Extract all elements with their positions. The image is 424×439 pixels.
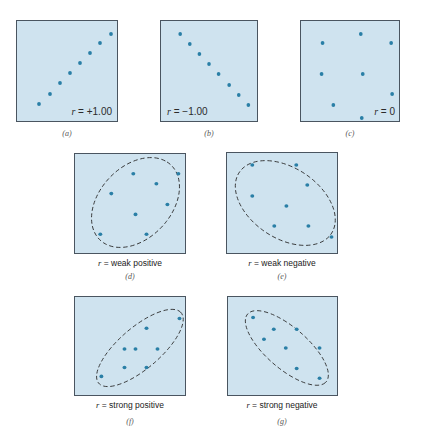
- scatter-panel-e: [226, 152, 338, 254]
- correlation-label-f: r = strong positive: [96, 400, 164, 410]
- cluster-ellipse-e: [227, 153, 337, 253]
- scatter-plot-g: [228, 297, 337, 395]
- correlation-label-b: r = −1.00: [167, 106, 208, 117]
- correlation-label-d: r = weak positive: [98, 258, 162, 268]
- correlation-label-c: r = 0: [374, 106, 395, 117]
- caption-g: (g): [277, 417, 286, 426]
- correlation-label-a: r = +1.00: [71, 106, 112, 117]
- scatter-panel-c: r = 0: [300, 20, 400, 122]
- scatter-plot-f: [75, 297, 185, 395]
- caption-b: (b): [204, 129, 213, 138]
- caption-d: (d): [125, 272, 134, 281]
- caption-c: (c): [346, 129, 355, 138]
- correlation-label-g: r = strong negative: [246, 400, 317, 410]
- scatter-panel-d: [74, 153, 186, 254]
- scatter-panel-a: r = +1.00: [16, 20, 118, 122]
- scatter-panel-f: [74, 296, 186, 396]
- scatter-panel-g: [227, 296, 338, 396]
- correlation-label-e: r = weak negative: [248, 258, 315, 268]
- caption-f: (f): [126, 417, 134, 426]
- cluster-ellipse-f: [84, 298, 185, 395]
- scatter-panel-b: r = −1.00: [160, 20, 258, 122]
- scatter-plot-e: [227, 153, 337, 253]
- scatter-plot-d: [75, 154, 185, 253]
- caption-e: (e): [278, 272, 287, 281]
- caption-a: (a): [62, 129, 71, 138]
